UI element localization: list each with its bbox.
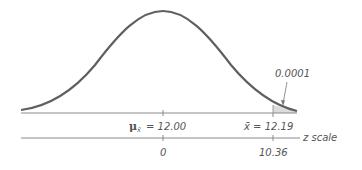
- normal-distribution-diagram: 0.0001 μ x̄ = 12.00 x̄ = 12.19 z scale 0…: [0, 0, 362, 170]
- mu-symbol: μ: [129, 120, 137, 133]
- observed-mean-label: x̄ = 12.19: [243, 121, 293, 132]
- mean-subscript: x̄: [136, 126, 141, 134]
- bell-curve: [21, 11, 297, 111]
- mean-value: = 12.00: [146, 121, 186, 132]
- mean-label: μ x̄ = 12.00: [129, 120, 186, 134]
- z-scale-label: z scale: [302, 132, 337, 143]
- z-tick-label-observed: 10.36: [259, 147, 288, 158]
- z-tick-label-0: 0: [160, 147, 166, 158]
- tail-area-label: 0.0001: [275, 68, 310, 79]
